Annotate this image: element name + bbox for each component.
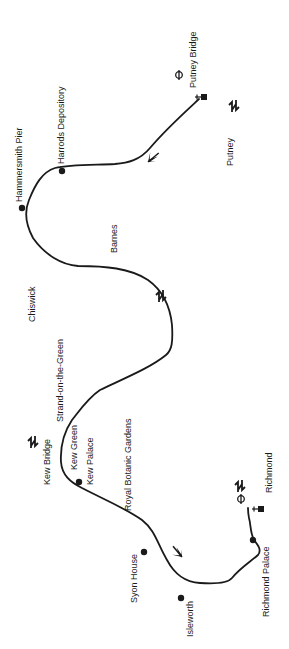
- hammersmith-pier-dot: [19, 205, 25, 211]
- harrods-depository-dot: [59, 168, 65, 174]
- syon-house-dot: [141, 549, 147, 555]
- label-harrods-depository: Harrods Depository: [57, 86, 66, 164]
- label-kew-green: Kew Green: [70, 425, 79, 470]
- label-barnes: Barnes: [110, 224, 119, 253]
- rail-station-icon: [28, 436, 38, 448]
- pier-icon: [195, 94, 207, 100]
- label-royal-botanic-gardens: Royal Botanic Gardens: [124, 418, 133, 511]
- pier-icon: [252, 506, 264, 512]
- underground-station-icon: [176, 70, 183, 80]
- label-isleworth: Isleworth: [186, 601, 195, 637]
- label-richmond-palace: Richmond Palace: [262, 546, 271, 617]
- label-kew-palace: Kew Palace: [86, 437, 95, 485]
- kew-palace-dot: [76, 479, 82, 485]
- isleworth-dot: [178, 595, 184, 601]
- label-chiswick: Chiswick: [28, 286, 37, 322]
- richmond-palace-dot: [250, 537, 256, 543]
- rail-station-icon: [235, 480, 245, 492]
- label-putney-bridge: Putney Bridge: [189, 31, 198, 88]
- label-hammersmith-pier: Hammersmith Pier: [15, 127, 24, 202]
- label-richmond: Richmond: [265, 452, 274, 493]
- rail-station-icon: [229, 100, 239, 112]
- label-strand-on-the-green: Strand-on-the-Green: [56, 339, 65, 422]
- label-putney: Putney: [226, 138, 235, 166]
- label-syon-house: Syon House: [130, 554, 139, 603]
- underground-station-icon: [238, 494, 245, 504]
- thames-map: [0, 0, 289, 649]
- flow-direction-arrow-icon: [168, 543, 185, 561]
- label-kew-bridge: Kew Bridge: [43, 439, 52, 485]
